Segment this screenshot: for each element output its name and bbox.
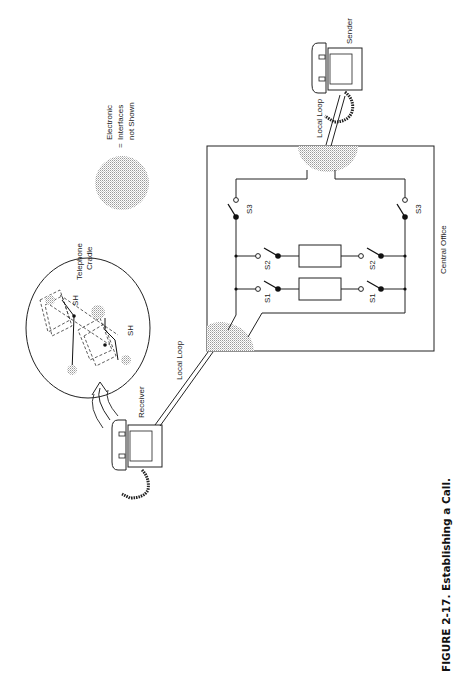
switching-circuit — [228, 170, 405, 337]
switch-s1-left: S1 — [256, 281, 281, 303]
switch-s3-right: S3 — [397, 198, 423, 220]
magnify-arrow-icon — [99, 388, 110, 420]
legend-text-2: Interfaces — [116, 105, 125, 140]
telephone-cradle-label-2: Cradle — [85, 246, 94, 270]
local-loop-left: Local Loop — [155, 340, 213, 426]
svg-text:S2: S2 — [368, 260, 377, 270]
central-office-label: Central Office — [439, 225, 448, 274]
sh-label-bottom: SH — [126, 325, 135, 336]
switch-s3-left: S3 — [228, 198, 254, 220]
figure-caption: FIGURE 2-17. Establishing a Call. — [440, 478, 452, 672]
svg-text:S3: S3 — [245, 204, 254, 214]
legend-text-1: Electronic — [105, 105, 114, 140]
svg-text:S1: S1 — [368, 293, 377, 303]
receiver-telephone-icon: Receiver — [112, 386, 162, 498]
svg-text:S1: S1 — [263, 293, 272, 303]
telephone-cradle-label-1: Telephone — [75, 243, 84, 280]
svg-text:S2: S2 — [263, 260, 272, 270]
interface-stipple-top-icon — [298, 146, 358, 172]
svg-text:S3: S3 — [414, 204, 423, 214]
sh-label-top: SH — [71, 295, 80, 306]
establishing-call-diagram: = Electronic Interfaces not Shown Teleph… — [0, 0, 465, 682]
switch-s2-left: S2 — [256, 248, 281, 270]
sender-label: Sender — [345, 18, 354, 44]
central-office-box: Central Office — [207, 146, 448, 351]
legend: = Electronic Interfaces not Shown — [95, 102, 149, 210]
local-loop-left-label: Local Loop — [175, 340, 184, 380]
switch-s1-right: S1 — [359, 281, 384, 303]
receiver-label: Receiver — [137, 386, 146, 418]
legend-equals: = — [116, 143, 125, 148]
local-loop-right-label: Local Loop — [315, 98, 324, 138]
electronic-interface-legend-icon — [95, 156, 149, 210]
switch-s2-right: S2 — [359, 248, 384, 270]
legend-text-3: not Shown — [127, 102, 136, 140]
telephone-cradle-detail: Telephone Cradle SH SH — [26, 243, 150, 398]
